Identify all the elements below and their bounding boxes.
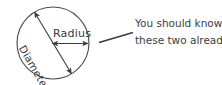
diameter-arrow-lower bbox=[53, 43, 72, 74]
annotation-line-2: these two already. bbox=[135, 32, 222, 49]
annotation-note: You should know these two already. bbox=[135, 15, 222, 49]
annotation-line-1: You should know bbox=[135, 15, 222, 32]
annotation-leader-line bbox=[99, 33, 133, 43]
diameter-arrow-upper bbox=[35, 12, 54, 43]
circle-diagram: Radius Diameter You should know these tw… bbox=[0, 0, 222, 85]
radius-label: Radius bbox=[53, 27, 91, 40]
